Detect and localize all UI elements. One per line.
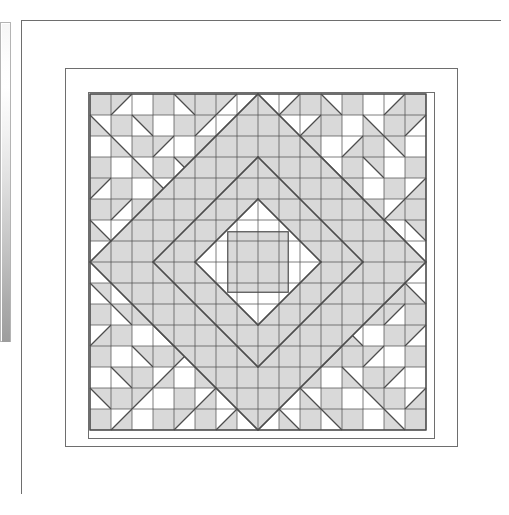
quilt-unit-F [384,178,405,199]
vertical-scrollbar[interactable] [0,22,11,342]
quilt-unit-E [363,409,384,430]
quilt-unit-F [132,367,153,388]
quilt-unit-E [363,94,384,115]
quilt-unit-E [405,367,426,388]
quilt-unit-E [342,388,363,409]
quilt-unit-E [90,136,111,157]
quilt-unit-F [153,346,174,367]
quilt-unit-E [153,115,174,136]
quilt-unit-E [111,346,132,367]
quilt-unit-E [132,94,153,115]
quilt-unit-F [174,388,195,409]
quilt-unit-E [321,136,342,157]
quilt-unit-E [384,157,405,178]
quilt-unit-F [111,325,132,346]
quilt-unit-E [174,367,195,388]
quilt-unit-F [153,409,174,430]
quilt-unit-F [174,115,195,136]
quilt-pattern-svg [21,20,501,494]
quilt-unit-F [90,409,111,430]
quilt-unit-E [405,136,426,157]
quilt-unit-F [90,157,111,178]
quilt-unit-F [405,346,426,367]
quilt-unit-F [405,304,426,325]
quilt-unit-E [111,157,132,178]
quilt-unit-F [195,94,216,115]
quilt-unit-F [111,178,132,199]
quilt-unit-F [111,388,132,409]
quilt-unit-F [111,115,132,136]
quilt-unit-F [195,409,216,430]
quilt-unit-F [153,157,174,178]
quilt-diagram-page [0,0,509,515]
quilt-unit-F [405,94,426,115]
quilt-unit-E [321,367,342,388]
quilt-unit-F [363,367,384,388]
quilt-unit-F [132,136,153,157]
quilt-unit-E [132,178,153,199]
quilt-pattern-figure [21,20,501,494]
quilt-unit-E [363,178,384,199]
quilt-unit-F [342,94,363,115]
quilt-unit-F [153,94,174,115]
quilt-unit-F [405,157,426,178]
quilt-unit-F [90,199,111,220]
quilt-unit-F [342,157,363,178]
quilt-unit-E [132,409,153,430]
quilt-unit-F [321,388,342,409]
quilt-unit-E [174,136,195,157]
quilt-unit-F [90,94,111,115]
quilt-unit-F [384,388,405,409]
quilt-unit-E [90,367,111,388]
quilt-unit-F [342,409,363,430]
quilt-unit-F [321,115,342,136]
quilt-unit-F [300,409,321,430]
quilt-unit-F [342,346,363,367]
quilt-unit-F [405,199,426,220]
quilt-unit-E [363,325,384,346]
quilt-unit-F [384,325,405,346]
quilt-unit-F [90,346,111,367]
quilt-unit-E [342,115,363,136]
quilt-unit-F [300,94,321,115]
quilt-unit-F [384,115,405,136]
quilt-unit-E [384,346,405,367]
quilt-unit-F [405,409,426,430]
quilt-unit-F [90,304,111,325]
quilt-unit-F [363,136,384,157]
quilt-unit-E [132,325,153,346]
quilt-unit-E [153,388,174,409]
scrollbar-thumb[interactable] [2,24,10,342]
